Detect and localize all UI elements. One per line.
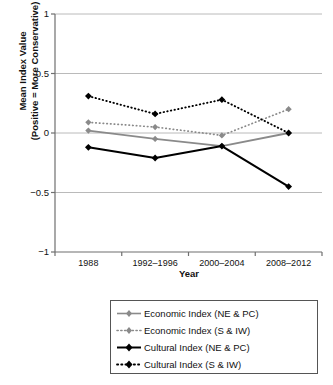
chart-legend: Economic Index (NE & PC) Economic Index … [110,300,318,374]
legend-label: Cultural Index (NE & PC) [144,342,250,353]
x-axis-title: Year [55,268,323,279]
x-axis-tick-label: 1988 [55,258,122,268]
x-axis-tick-label: 2000–2004 [189,258,256,268]
legend-item[interactable]: Cultural Index (S & IW) [111,356,317,373]
legend-marker-cultural-ne-pc [116,341,142,354]
x-axis-tick-label: 2008–2012 [255,258,322,268]
legend-label: Economic Index (S & IW) [144,325,250,336]
chart-figure: Mean Index Value (Positive = More Conser… [0,0,333,385]
legend-marker-cultural-s-iw [116,358,142,371]
legend-item[interactable]: Economic Index (S & IW) [111,322,317,339]
legend-item[interactable]: Cultural Index (NE & PC) [111,339,317,356]
legend-marker-economic-s-iw [116,324,142,337]
x-axis-tick-label: 1992–1996 [122,258,189,268]
legend-item[interactable]: Economic Index (NE & PC) [111,305,317,322]
legend-label: Economic Index (NE & PC) [144,308,259,319]
legend-marker-economic-ne-pc [116,307,142,320]
legend-label: Cultural Index (S & IW) [144,359,241,370]
